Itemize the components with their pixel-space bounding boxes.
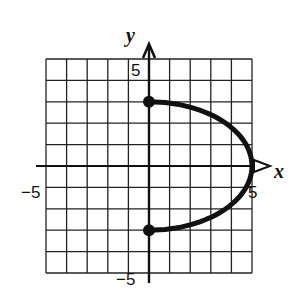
x-min-tick-label: −5 (21, 183, 40, 202)
x-axis (36, 160, 270, 172)
y-max-tick-label: 5 (131, 61, 140, 80)
closed-endpoint-top (143, 96, 155, 108)
closed-endpoint-bottom (143, 224, 155, 236)
x-axis-arrow-icon (254, 160, 270, 172)
graph: y x 5 −5 −5 5 (0, 0, 294, 300)
y-min-tick-label: −5 (116, 270, 135, 289)
x-max-tick-label: 5 (248, 183, 257, 202)
y-axis-label: y (124, 24, 135, 47)
x-axis-label: x (273, 160, 284, 182)
